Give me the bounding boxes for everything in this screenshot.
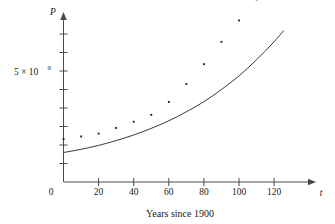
x-axis-arrow-icon [308,179,316,186]
x-tick-label: 20 [94,187,104,197]
y-tick-label-mantissa: 5 × 10 [14,67,39,77]
scatter-plot: P 5 × 10 9 0 20 40 60 80 100 120 t Years… [0,0,335,224]
y-axis-variable-label: P [49,7,56,17]
data-point [63,138,65,140]
data-point [133,121,135,123]
data-point [150,114,152,116]
x-tick-label: 60 [164,187,174,197]
x-axis-title: Years since 1900 [146,208,214,219]
data-point [98,133,100,135]
x-axis-variable-label: t [320,188,323,198]
exponential-model-curve [64,31,284,153]
x-tick-label: 80 [199,187,209,197]
data-point [185,83,187,85]
y-tick-label-exponent: 9 [48,64,51,71]
x-tick-label: 100 [232,187,247,197]
data-point [80,136,82,138]
x-tick-label: 120 [267,187,282,197]
data-point [203,63,205,65]
data-point [238,20,240,22]
data-point [168,101,170,103]
x-tick-label: 40 [129,187,139,197]
origin-label: 0 [49,187,54,197]
figure-container: P 5 × 10 9 0 20 40 60 80 100 120 t Years… [0,0,335,224]
y-axis-arrow-icon [60,12,67,20]
data-point [115,127,117,129]
data-point [221,41,223,43]
